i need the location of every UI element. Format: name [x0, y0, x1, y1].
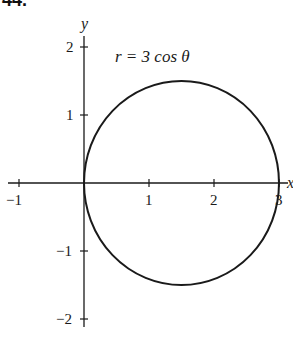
- y-axis-label: y: [79, 15, 89, 33]
- equation-label: r = 3 cos θ: [115, 47, 190, 66]
- y-tick-label: −1: [56, 243, 72, 259]
- problem-number: 44.: [2, 0, 27, 10]
- y-tick-label: −2: [56, 311, 72, 327]
- x-tick-label: 1: [145, 192, 153, 208]
- x-tick-label: −1: [6, 192, 22, 208]
- polar-graph-figure: 44. −1 1 2 3 2 1 −1 −2 y x: [0, 0, 293, 341]
- plot-canvas: 44. −1 1 2 3 2 1 −1 −2 y x: [0, 0, 293, 341]
- x-tick-label: 2: [210, 192, 218, 208]
- y-tick-label: 2: [66, 39, 74, 55]
- x-axis-label: x: [286, 174, 293, 191]
- y-tick-label: 1: [66, 107, 74, 123]
